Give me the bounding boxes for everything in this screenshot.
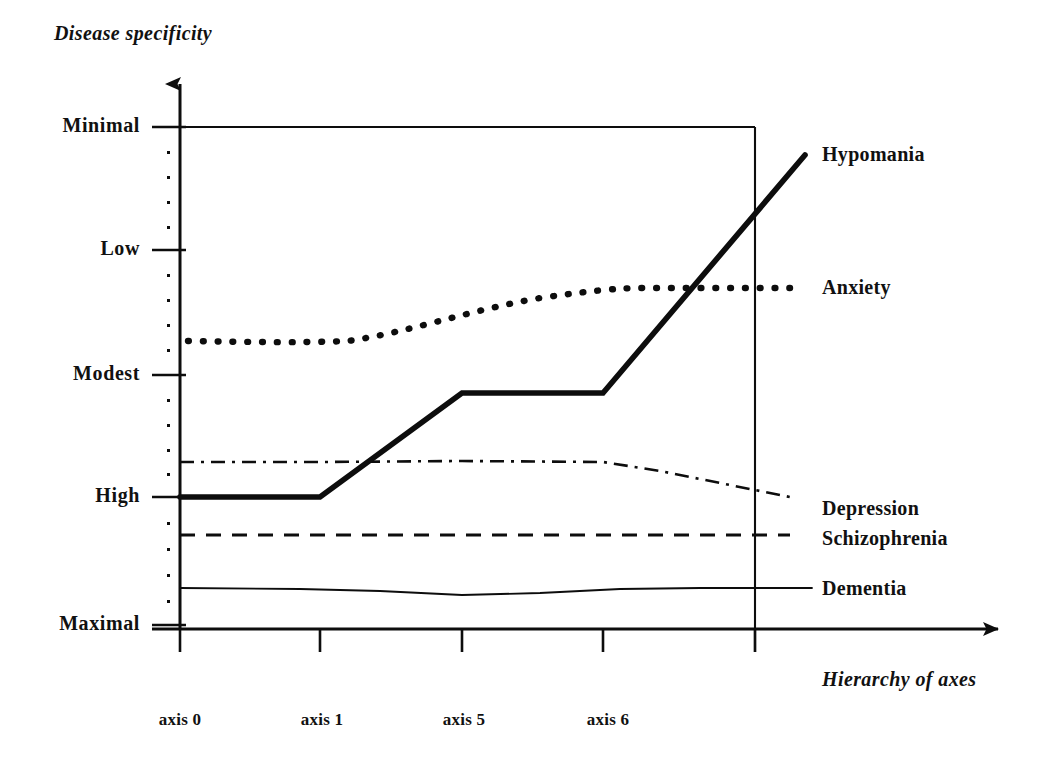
y-axis-title: Disease specificity: [54, 22, 212, 45]
x-axis-title: Hierarchy of axes: [822, 668, 977, 691]
y-axis-minor-ticks: [167, 151, 170, 603]
series-line-dementia: [180, 588, 812, 595]
y-tick-label-low: Low: [0, 237, 140, 260]
chart-svg: [0, 0, 1042, 766]
x-tick-label-axis-5: axis 5 =social dysfunc- tioning: [393, 670, 535, 766]
x-tick-label-axis-0-line1: axis 0: [109, 710, 251, 730]
series-label-depression: Depression: [822, 497, 919, 520]
series-line-hypomania: [180, 155, 805, 497]
x-tick-label-axis-1-line1: axis 1: [251, 710, 393, 730]
series-label-schizophrenia: Schizophrenia: [822, 527, 948, 550]
x-tick-label-axis-5-line1: axis 5: [393, 710, 535, 730]
y-tick-label-high: High: [0, 484, 140, 507]
figure-canvas: Disease specificity Hierarchy of axes Mi…: [0, 0, 1042, 766]
series-label-dementia: Dementia: [822, 577, 907, 600]
plot-frame: [152, 127, 755, 652]
y-tick-label-modest: Modest: [0, 362, 140, 385]
series-line-anxiety: [188, 288, 790, 342]
x-tick-label-axis-1: axis 1 =clinical disability: [251, 670, 393, 766]
series-line-depression: [180, 461, 790, 497]
x-axis-ticks: [180, 629, 755, 652]
series-label-anxiety: Anxiety: [822, 276, 891, 299]
x-tick-label-axis-6: axis 6 =discomfort: [522, 670, 694, 766]
x-tick-label-axis-6-line1: axis 6: [522, 710, 694, 730]
x-tick-label-axis-0: axis 0 =organic impairment: [109, 670, 251, 766]
series-label-hypomania: Hypomania: [822, 143, 925, 166]
y-tick-label-minimal: Minimal: [0, 114, 140, 137]
y-tick-label-maximal: Maximal: [0, 612, 140, 635]
